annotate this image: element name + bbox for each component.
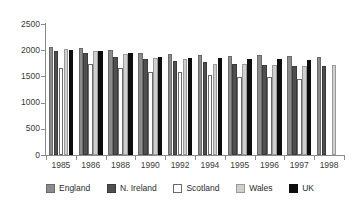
x-tick-mark [195, 155, 196, 160]
bar-scotland-1996 [267, 77, 272, 155]
bar-wales-1997 [302, 66, 307, 155]
bar-n-ireland-1997 [292, 66, 297, 155]
x-tick-mark [284, 155, 285, 160]
bar-wales-1985 [64, 49, 69, 155]
bar-wales-1986 [93, 51, 98, 155]
x-tick-label: 1988 [107, 161, 135, 170]
y-tick-label: 500 [0, 124, 40, 133]
bar-n-ireland-1986 [83, 53, 88, 155]
legend-label: England [59, 184, 90, 193]
bar-scotland-1986 [88, 64, 93, 155]
bar-uk-1994 [218, 58, 223, 155]
x-tick-label: 1997 [285, 161, 313, 170]
bar-uk-1990 [158, 57, 163, 155]
bar-england-1992 [168, 54, 173, 155]
bar-uk-1985 [69, 50, 74, 155]
bar-england-1997 [287, 56, 292, 155]
bar-wales-1990 [153, 58, 158, 155]
legend-item-uk[interactable]: UK [289, 184, 314, 193]
bar-scotland-1985 [59, 68, 64, 155]
x-tick-mark [314, 155, 315, 160]
bar-n-ireland-1998 [322, 66, 327, 155]
x-tick-label: 1992 [166, 161, 194, 170]
bar-n-ireland-1985 [54, 51, 59, 155]
legend-item-wales[interactable]: Wales [236, 184, 272, 193]
bar-england-1994 [198, 55, 203, 155]
bar-wales-1996 [272, 65, 277, 155]
bar-scotland-1995 [237, 77, 242, 155]
bar-n-ireland-1988 [113, 57, 118, 155]
y-tick-label: 1000 [0, 98, 40, 107]
legend-label: Scotland [186, 184, 219, 193]
bar-n-ireland-1992 [173, 61, 178, 155]
y-axis-tick-labels: 05001000150020002500 [0, 0, 40, 209]
bar-uk-1986 [98, 51, 103, 155]
x-tick-label: 1986 [77, 161, 105, 170]
x-tick-label: 1994 [196, 161, 224, 170]
legend-label: N. Ireland [120, 184, 157, 193]
bar-england-1986 [79, 48, 84, 155]
x-tick-mark [106, 155, 107, 160]
x-tick-label: 1985 [47, 161, 75, 170]
y-tick-label: 2000 [0, 46, 40, 55]
y-tick-label: 2500 [0, 20, 40, 29]
x-tick-label: 1990 [136, 161, 164, 170]
bar-uk-1988 [128, 53, 133, 155]
bar-wales-1992 [183, 59, 188, 155]
x-tick-mark [225, 155, 226, 160]
bar-wales-1994 [213, 64, 218, 155]
bar-chart-figure: 05001000150020002500 1985198619881990199… [0, 0, 352, 209]
x-tick-mark [76, 155, 77, 160]
bar-wales-1998 [332, 65, 337, 155]
legend-swatch-icon [236, 184, 245, 193]
bar-wales-1988 [123, 54, 128, 155]
y-tick-label: 0 [0, 151, 40, 160]
bar-scotland-1997 [297, 79, 302, 156]
x-tick-mark [46, 155, 47, 160]
legend-item-england[interactable]: England [46, 184, 90, 193]
bar-uk-1995 [247, 59, 252, 155]
x-tick-mark [344, 155, 345, 160]
bar-n-ireland-1990 [143, 59, 148, 155]
legend-item-scotland[interactable]: Scotland [173, 184, 219, 193]
x-tick-label: 1996 [256, 161, 284, 170]
x-tick-label: 1995 [226, 161, 254, 170]
legend-label: Wales [249, 184, 272, 193]
bar-england-1985 [49, 47, 54, 155]
legend-swatch-icon [107, 184, 116, 193]
chart-legend: EnglandN. IrelandScotlandWalesUK [46, 180, 314, 196]
x-tick-mark [165, 155, 166, 160]
legend-item-n-ireland[interactable]: N. Ireland [107, 184, 157, 193]
bar-uk-1996 [277, 59, 282, 155]
bar-scotland-1992 [178, 72, 183, 155]
bar-n-ireland-1995 [232, 64, 237, 155]
bar-n-ireland-1994 [203, 62, 208, 155]
bar-england-1988 [108, 50, 113, 155]
bar-scotland-1988 [118, 68, 123, 156]
bar-uk-1992 [188, 58, 193, 155]
x-tick-mark [255, 155, 256, 160]
bar-scotland-1994 [208, 75, 213, 155]
plot-area [46, 24, 344, 155]
y-tick-label: 1500 [0, 72, 40, 81]
bar-england-1998 [317, 57, 322, 155]
x-tick-label: 1998 [315, 161, 343, 170]
legend-swatch-icon [289, 184, 298, 193]
bar-n-ireland-1996 [262, 65, 267, 155]
legend-swatch-icon [173, 184, 182, 193]
bar-england-1996 [257, 55, 262, 155]
legend-label: UK [302, 184, 314, 193]
bar-uk-1997 [307, 60, 312, 155]
bar-england-1990 [138, 53, 143, 155]
bar-scotland-1990 [148, 72, 153, 155]
x-tick-mark [135, 155, 136, 160]
bar-england-1995 [228, 56, 233, 155]
legend-swatch-icon [46, 184, 55, 193]
bar-wales-1995 [242, 64, 247, 155]
